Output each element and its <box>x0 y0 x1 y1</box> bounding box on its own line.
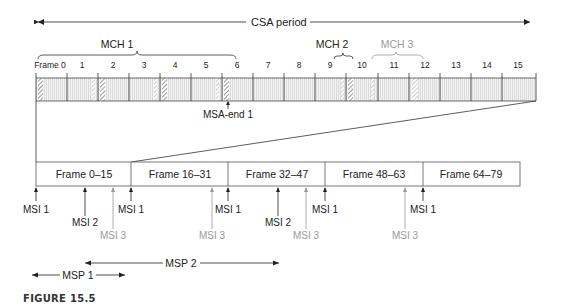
svg-text:MSI 2: MSI 2 <box>72 217 99 228</box>
frame-group-label: Frame 64–79 <box>440 168 503 180</box>
frame-label: 3 <box>142 60 147 70</box>
frame-group-label: Frame 32–47 <box>246 168 309 180</box>
frame-label: 7 <box>266 60 271 70</box>
frame-label: 6 <box>235 60 240 70</box>
frame-label: 13 <box>451 60 461 70</box>
svg-text:MSI 1: MSI 1 <box>215 204 242 215</box>
svg-text:MSI 3: MSI 3 <box>199 230 226 241</box>
top-frame-bar <box>36 73 536 101</box>
figure-caption: FIGURE 15.5 <box>23 293 96 304</box>
mch-2-brace: MCH 2 <box>316 38 353 59</box>
svg-text:MSI 3: MSI 3 <box>392 230 419 241</box>
mbms-scheduling-diagram: CSA period MCH 1 MCH 2 MCH 3 Frame 0 1 2… <box>0 0 562 307</box>
frame-label: 8 <box>297 60 302 70</box>
mch-1-brace: MCH 1 <box>38 38 236 59</box>
msp-1-label: MSP 1 <box>62 269 93 281</box>
svg-text:MSI 3: MSI 3 <box>293 230 320 241</box>
svg-text:MSI 3: MSI 3 <box>100 230 127 241</box>
bottom-frame-bar: Frame 0–15 Frame 16–31 Frame 32–47 Frame… <box>36 162 520 186</box>
csa-period-label: CSA period <box>251 16 307 28</box>
frame-label: 1 <box>80 60 85 70</box>
frame-label: 12 <box>420 60 430 70</box>
frame-label: 14 <box>482 60 492 70</box>
msa-end-marker: MSA-end 1 <box>203 101 253 120</box>
msp-1-arrow: MSP 1 <box>32 269 125 281</box>
msi-1-marker: MSI 1 <box>118 187 145 215</box>
frame-label: 5 <box>204 60 209 70</box>
frame-label: 10 <box>357 60 367 70</box>
msi-2-marker: MSI 2 <box>265 187 292 228</box>
zoom-connector-lines <box>36 101 536 162</box>
mch-1-label: MCH 1 <box>101 38 134 50</box>
svg-text:MSI 1: MSI 1 <box>23 204 50 215</box>
mch-2-label: MCH 2 <box>316 38 349 50</box>
msa-end-label: MSA-end 1 <box>203 109 253 120</box>
frame-label: 9 <box>328 60 333 70</box>
svg-text:MSI 1: MSI 1 <box>410 204 437 215</box>
svg-text:MSI 2: MSI 2 <box>265 217 292 228</box>
msi-1-marker: MSI 1 <box>215 187 242 215</box>
msp-2-arrow: MSP 2 <box>85 257 279 269</box>
msi-markers: MSI 1 MSI 2 MSI 3 MSI 1 MSI 3 MSI 1 MSI … <box>23 187 437 241</box>
msi-1-marker: MSI 1 <box>23 187 50 215</box>
frame-label: 15 <box>513 60 523 70</box>
frame-group-label: Frame 16–31 <box>149 168 212 180</box>
frame-group-label: Frame 0–15 <box>56 168 113 180</box>
msi-1-marker: MSI 1 <box>410 187 437 215</box>
frame-label: Frame 0 <box>34 60 66 70</box>
msi-2-marker: MSI 2 <box>72 187 99 228</box>
frame-label: 11 <box>390 60 399 70</box>
mch-3-brace: MCH 3 <box>372 38 423 59</box>
csa-period-arrow: CSA period <box>38 16 530 28</box>
msp-2-label: MSP 2 <box>165 257 196 269</box>
frame-number-labels: Frame 0 1 2 3 4 5 6 7 8 9 10 11 12 13 14… <box>34 60 523 70</box>
frame-group-label: Frame 48–63 <box>343 168 406 180</box>
msi-1-marker: MSI 1 <box>312 187 339 215</box>
frame-label: 2 <box>111 60 116 70</box>
svg-text:MSI 1: MSI 1 <box>312 204 339 215</box>
frame-label: 4 <box>173 60 178 70</box>
mch-3-label: MCH 3 <box>381 38 414 50</box>
svg-text:MSI 1: MSI 1 <box>118 204 145 215</box>
